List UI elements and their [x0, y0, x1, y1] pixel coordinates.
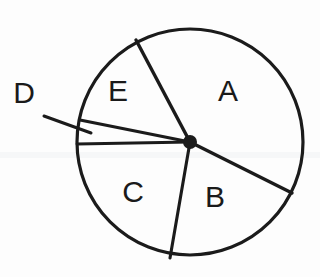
sector-label-a: A: [218, 76, 238, 106]
pie-sector-figure: [0, 0, 320, 277]
sector-label-b: B: [205, 182, 225, 212]
radius-b-c: [170, 142, 190, 258]
diagram-canvas: A B C D E: [0, 0, 320, 277]
radius-d-e: [80, 120, 190, 142]
sector-label-e: E: [108, 76, 128, 106]
sector-label-c: C: [122, 177, 144, 207]
leader-line-d: [44, 116, 91, 133]
radius-c-d: [77, 142, 190, 144]
center-hub-dot: [183, 135, 197, 149]
sector-label-d: D: [13, 78, 35, 108]
radius-e-a: [136, 40, 190, 142]
